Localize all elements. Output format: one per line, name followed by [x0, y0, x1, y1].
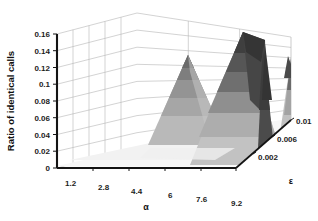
y-tick-label: 0: [46, 164, 51, 173]
y-tick-label: 0.12: [34, 64, 50, 73]
y-tick-label: 0.06: [34, 114, 50, 123]
x-axis-title: α: [143, 202, 149, 212]
z-tick-label: 0.01: [296, 117, 312, 126]
y-tick-label: 0.02: [34, 147, 50, 156]
y-tick-label: 0.08: [34, 97, 50, 106]
z-axis-title: ε: [289, 176, 294, 186]
back-left-wall: [57, 13, 137, 168]
chart-svg: 0.16 0.14 0.12 0.1 0.08 0.06 0.04 0.02 0…: [0, 0, 318, 221]
x-tick-label: 7.6: [196, 195, 208, 204]
z-tick-label: 0.002: [258, 153, 279, 162]
y-tick-label: 0.04: [34, 131, 50, 140]
y-tick-label: 0.16: [34, 30, 50, 39]
y-tick-label: 0.14: [34, 47, 50, 56]
x-tick-label: 6: [168, 191, 173, 200]
x-tick-label: 4.4: [131, 187, 143, 196]
y-tick-label: 0.1: [39, 80, 51, 89]
y-axis-title: Ratio of identical calls: [5, 51, 16, 151]
x-tick-label: 1.2: [65, 179, 77, 188]
y-tick-labels: 0.16 0.14 0.12 0.1 0.08 0.06 0.04 0.02 0: [34, 30, 50, 173]
x-tick-label: 9.2: [231, 199, 243, 208]
surface-chart-3d: 0.16 0.14 0.12 0.1 0.08 0.06 0.04 0.02 0…: [0, 0, 318, 221]
x-tick-label: 2.8: [98, 183, 110, 192]
z-tick-label: 0.006: [277, 135, 298, 144]
